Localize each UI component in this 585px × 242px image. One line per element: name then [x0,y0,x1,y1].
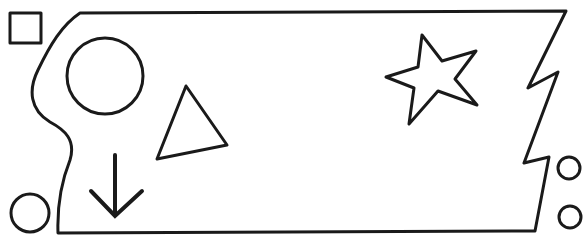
large-circle-shape [67,38,143,114]
diagram-canvas: Shapes diagram [0,0,585,242]
triangle-shape [157,86,227,159]
small-circle-right-upper-shape [558,157,580,179]
small-circle-bottom-left-shape [11,194,49,232]
small-circle-right-lower-shape [559,206,581,228]
main-outline-shape [32,11,566,233]
diagram-svg [0,0,585,242]
star-shape [386,35,477,124]
down-arrow-icon [91,155,142,216]
square-shape [10,13,41,43]
